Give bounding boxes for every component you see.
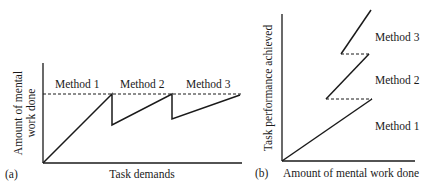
panel-b: Method 3 Method 2 Method 1 Amount of men… bbox=[255, 10, 420, 180]
panel-a-y-axis-label-line2: work done bbox=[25, 89, 37, 138]
panel-b-x-axis-label: Amount of mental work done bbox=[283, 167, 419, 179]
panel-a: Method 1 Method 2 Method 3 Task demands … bbox=[5, 63, 242, 181]
panel-a-method-1-label: Method 1 bbox=[55, 78, 100, 90]
panel-b-method-1-label: Method 1 bbox=[375, 120, 420, 132]
panel-b-method-2-label: Method 2 bbox=[375, 74, 420, 86]
panel-a-x-axis-label: Task demands bbox=[109, 168, 175, 180]
panel-b-method-3-line bbox=[341, 10, 371, 54]
panel-a-y-axis-label-line1: Amount of mental bbox=[12, 71, 24, 155]
panel-a-method-2-label: Method 2 bbox=[120, 78, 165, 90]
panel-b-y-axis-label: Task performance achieved bbox=[262, 25, 275, 152]
panel-a-tag: (a) bbox=[5, 168, 18, 181]
panel-a-method-3-label: Method 3 bbox=[186, 78, 231, 90]
panel-b-method-1-line bbox=[282, 99, 372, 161]
panel-b-tag: (b) bbox=[255, 167, 269, 180]
panel-a-work-curve bbox=[43, 94, 240, 163]
panel-b-method-3-label: Method 3 bbox=[375, 31, 420, 43]
figure: Method 1 Method 2 Method 3 Task demands … bbox=[0, 0, 427, 187]
panel-b-method-2-line bbox=[326, 54, 369, 99]
